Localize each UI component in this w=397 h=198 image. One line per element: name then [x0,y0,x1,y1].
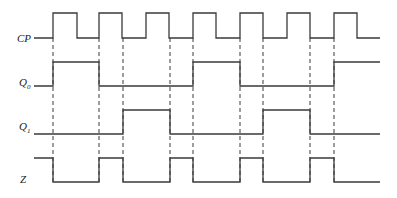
signal-label-q1-main: Q [19,120,27,132]
waveforms [34,13,380,182]
signal-label-q1-subscript: 1 [27,127,31,135]
signal-label-z: Z [20,174,26,185]
waveform-cp [34,13,380,38]
signal-label-z-text: Z [20,173,26,185]
signal-label-q1: Q1 [19,121,30,135]
signal-label-q0: Q0 [19,77,30,91]
waveform-q1 [34,110,380,134]
waveform-z [34,158,380,182]
signal-label-q0-subscript: 0 [27,83,31,91]
timing-diagram: CP Q0 Q1 Z [0,0,397,198]
signal-label-cp: CP [17,33,31,44]
waveform-q0 [34,62,380,86]
signal-label-cp-text: CP [17,32,31,44]
waveform-canvas [0,0,397,198]
signal-label-q0-main: Q [19,76,27,88]
